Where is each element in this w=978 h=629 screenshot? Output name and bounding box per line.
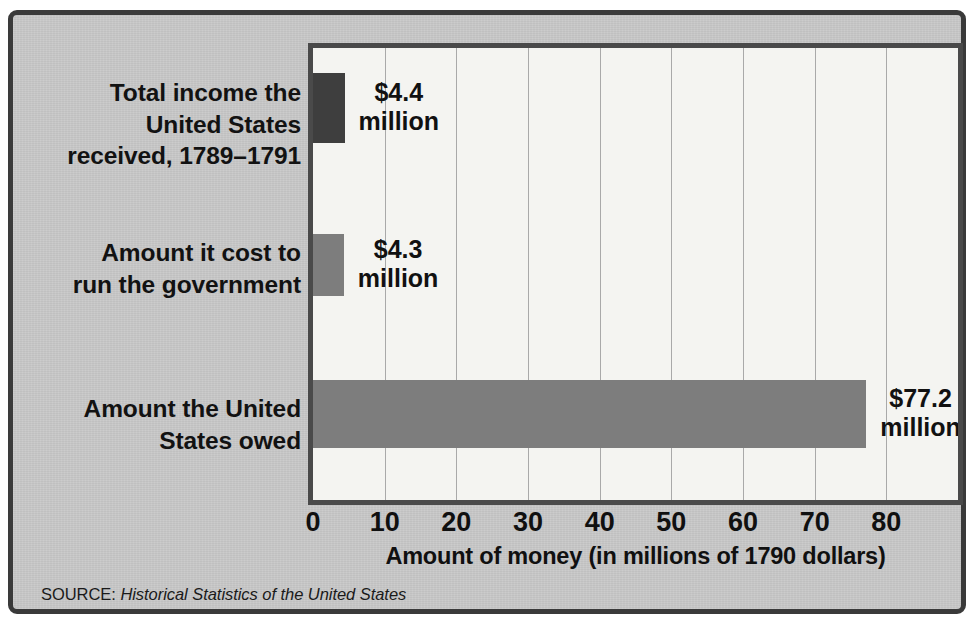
- bar-value-amount: $77.2: [880, 384, 958, 413]
- x-tick-label: 40: [585, 507, 615, 538]
- x-tick-label: 70: [800, 507, 830, 538]
- category-label-line: Amount it cost to: [101, 239, 301, 266]
- source-title: Historical Statistics of the United Stat…: [120, 585, 406, 603]
- category-label-total-income: Total income the United States received,…: [13, 77, 301, 172]
- bar-value-unit: million: [358, 264, 439, 293]
- bar-value-amount: $4.4: [359, 78, 440, 107]
- category-label-government-cost: Amount it cost to run the government: [13, 237, 301, 300]
- x-tick-label: 30: [513, 507, 543, 538]
- plot-area: $4.4million$4.3million$77.2million: [308, 43, 963, 505]
- category-label-line: States owed: [159, 427, 301, 454]
- figure-panel: Total income the United States received,…: [8, 10, 966, 614]
- bar: [313, 234, 344, 296]
- category-label-line: Amount the United: [84, 395, 301, 422]
- category-label-line: run the government: [73, 271, 301, 298]
- plot-inner: $4.4million$4.3million$77.2million: [313, 48, 958, 500]
- bar-value-unit: million: [880, 413, 958, 442]
- bar-value-unit: million: [359, 107, 440, 136]
- category-label-amount-owed: Amount the United States owed: [13, 393, 301, 456]
- x-axis-title: Amount of money (in millions of 1790 dol…: [308, 543, 963, 570]
- x-axis-tick-labels: 01020304050607080: [308, 507, 963, 543]
- bar-value-label: $4.4million: [359, 78, 440, 136]
- category-label-line: United States: [146, 111, 301, 138]
- x-tick-label: 10: [370, 507, 400, 538]
- category-label-line: Total income the: [110, 79, 301, 106]
- bar: [313, 73, 345, 143]
- bar-value-label: $77.2million: [880, 384, 958, 442]
- bar-value-amount: $4.3: [358, 235, 439, 264]
- x-tick-label: 20: [441, 507, 471, 538]
- x-tick-label: 50: [656, 507, 686, 538]
- bar: [313, 380, 866, 448]
- x-tick-label: 0: [305, 507, 320, 538]
- x-tick-label: 80: [871, 507, 901, 538]
- bar-value-label: $4.3million: [358, 235, 439, 293]
- source-note: SOURCE: Historical Statistics of the Uni…: [41, 585, 406, 604]
- category-label-line: received, 1789–1791: [67, 142, 301, 169]
- category-axis-labels: Total income the United States received,…: [13, 15, 301, 505]
- source-label: SOURCE:: [41, 585, 116, 603]
- x-tick-label: 60: [728, 507, 758, 538]
